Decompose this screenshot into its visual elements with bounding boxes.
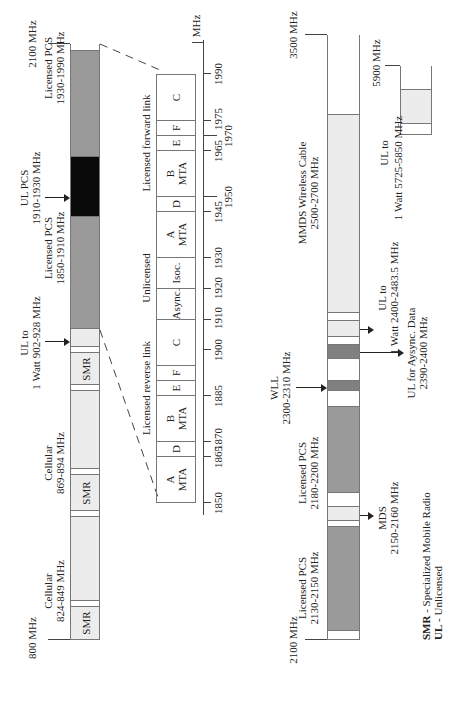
block-b-reverse: BMTA: [156, 395, 196, 442]
tick-1990: 1990: [212, 59, 224, 89]
arrow-head-icon: [321, 384, 327, 392]
right-end-label: 3500 MHz: [287, 0, 299, 70]
ul-async-range: 2390-2400 MHz: [417, 288, 429, 418]
block-a-reverse: AMTA: [156, 456, 196, 503]
ul-5800-segment: [401, 90, 431, 124]
ul-2400-segment: [328, 321, 359, 337]
tick-1850: 1850: [212, 488, 224, 518]
wll-segment: [328, 381, 359, 391]
ul-async-segment: [328, 345, 359, 359]
ul-async-title: UL for Aysync. Data: [405, 288, 417, 418]
mds-segment: [328, 507, 359, 521]
block-d-reverse: D: [156, 441, 196, 457]
spectrum-diagram: 800 MHz 2100 MHz SMR SMR SMR Cellular 82…: [0, 0, 453, 703]
block-c-reverse: C: [156, 319, 196, 366]
arrow-head-icon: [368, 512, 374, 520]
block-b-forward: BMTA: [156, 150, 196, 197]
right-band-bar: [327, 35, 360, 640]
small-end-tick: [385, 65, 400, 66]
block-c-forward: C: [156, 74, 196, 121]
block-async: Async.: [156, 288, 196, 320]
block-d-forward: D: [156, 196, 196, 212]
wll-title: WLL: [268, 333, 280, 443]
freq-axis: [203, 40, 204, 515]
small-end-label: 5900 MHz: [370, 28, 382, 98]
block-f-reverse: F: [156, 365, 196, 381]
axis-end-tick: [192, 42, 204, 43]
forward-link-label: Licensed forward link: [140, 63, 152, 223]
legend-ul: UL - Unlicensed: [432, 420, 444, 640]
tick-1910: 1910: [212, 303, 224, 333]
small-range: 1 Watt 5725-5850 MHz: [392, 103, 404, 233]
block-a-forward: AMTA: [156, 211, 196, 258]
licensed-pcs-3-range: 2130-2150 MHz: [308, 533, 320, 643]
mmds-segment: [328, 115, 359, 313]
tick-1885: 1885: [212, 381, 224, 411]
small-band-bar: [400, 66, 432, 135]
tick-1950: 1950: [222, 182, 234, 212]
arrow-head-icon: [368, 326, 374, 334]
mmds-range: 2500-2700 MHz: [308, 123, 320, 263]
block-e-reverse: E: [156, 380, 196, 396]
unlicensed-label: Unlicensed: [140, 233, 152, 323]
ul-2400-title: UL to: [376, 223, 388, 373]
unit-label: MHz: [190, 11, 202, 41]
mds-title: MDS: [376, 463, 388, 573]
wll-arrow: [296, 387, 324, 388]
end-tick: [305, 34, 327, 35]
small-title: UL to: [378, 123, 390, 183]
licensed-pcs-3-segment: [328, 527, 359, 631]
tick-1920: 1920: [212, 273, 224, 303]
ul-2400-range: 1 Watt 2400-2483.5 MHz: [388, 223, 400, 373]
licensed-pcs-4-segment: [328, 407, 359, 493]
mds-range: 2150-2160 MHz: [388, 463, 400, 573]
legend-smr: SMR - Specialized Mobile Radio: [420, 420, 432, 640]
tick-1930: 1930: [212, 243, 224, 273]
tick-1900: 1900: [212, 335, 224, 365]
tick-1870: 1870: [212, 424, 224, 454]
block-e-forward: E: [156, 135, 196, 151]
licensed-pcs-4-range: 2180-2200 MHz: [308, 418, 320, 528]
licensed-pcs-3-title: Licensed PCS: [296, 533, 308, 643]
tick-1975: 1975: [212, 104, 224, 134]
block-f-forward: F: [156, 120, 196, 136]
reverse-link-label: Licensed reverse link: [140, 313, 152, 463]
block-isoc: Isoc.: [156, 257, 196, 289]
wll-range: 2300-2310 MHz: [280, 333, 292, 443]
licensed-pcs-4-title: Licensed PCS: [296, 418, 308, 528]
mmds-title: MMDS Wireless Cable: [296, 123, 308, 263]
